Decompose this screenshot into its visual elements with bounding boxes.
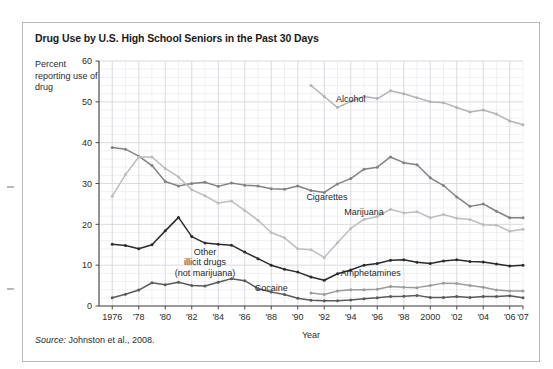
data-point	[323, 293, 326, 296]
data-point	[111, 243, 114, 246]
data-point	[164, 229, 167, 232]
data-point	[336, 289, 339, 292]
data-point	[151, 243, 154, 246]
x-tick-label: '96	[371, 312, 383, 322]
data-point	[495, 113, 498, 116]
x-tick-label: '86	[239, 312, 251, 322]
data-point	[230, 200, 233, 203]
data-point	[363, 264, 366, 267]
data-point	[124, 173, 127, 176]
series-label-group: Amphetamines	[341, 268, 402, 278]
data-point	[283, 268, 286, 271]
data-point	[124, 244, 127, 247]
data-point	[177, 184, 180, 187]
data-point	[283, 236, 286, 239]
data-point	[257, 257, 260, 260]
data-point	[469, 111, 472, 114]
data-point	[257, 219, 260, 222]
data-point	[416, 261, 419, 264]
data-point	[389, 208, 392, 211]
series-label: illicit drugs	[184, 257, 227, 267]
data-point	[363, 218, 366, 221]
data-point	[522, 123, 525, 126]
x-tick-label: '98	[398, 312, 410, 322]
data-point	[204, 242, 207, 245]
data-point	[296, 247, 299, 250]
figure-container: Drug Use by U.S. High School Seniors in …	[22, 22, 540, 362]
data-point	[482, 202, 485, 205]
x-axis-title: Year	[302, 330, 320, 340]
data-point	[310, 291, 313, 294]
x-tick-labels: 1976'78'80'82'84'86'88'90'92'94'96'98200…	[102, 306, 529, 322]
data-point	[455, 258, 458, 261]
series-label: (not marijuana)	[175, 268, 236, 278]
data-point	[363, 168, 366, 171]
data-point	[508, 294, 511, 297]
series-marijuana	[111, 155, 525, 258]
data-point	[296, 271, 299, 274]
plot-area-wrapper: 01020304050601976'78'80'82'84'86'88'90'9…	[23, 23, 541, 363]
data-point	[482, 109, 485, 112]
source-label: Source:	[35, 335, 66, 345]
x-tick-label: '80	[159, 312, 171, 322]
data-point	[495, 295, 498, 298]
data-point	[522, 289, 525, 292]
data-point	[111, 195, 114, 198]
data-point	[323, 256, 326, 259]
x-tick-label: '92	[318, 312, 330, 322]
data-point	[349, 177, 352, 180]
x-tick-label: '94	[345, 312, 357, 322]
data-point	[296, 184, 299, 187]
series-label: Alcohol	[336, 94, 366, 104]
data-point	[508, 289, 511, 292]
data-point	[270, 187, 273, 190]
x-tick-label: '07	[517, 312, 529, 322]
x-tick-label: '78	[133, 312, 145, 322]
data-point	[389, 259, 392, 262]
data-point	[204, 181, 207, 184]
data-point	[310, 276, 313, 279]
x-tick-label: '06	[504, 312, 516, 322]
y-tick-labels: 0102030405060	[82, 56, 99, 311]
data-point	[429, 284, 432, 287]
data-point	[455, 195, 458, 198]
data-point	[124, 148, 127, 151]
data-point	[204, 194, 207, 197]
data-point	[177, 216, 180, 219]
data-point	[508, 216, 511, 219]
series-label-group: Cigarettes	[306, 192, 348, 202]
series-label: Other	[194, 247, 217, 257]
data-point	[495, 262, 498, 265]
x-tick-label: '84	[212, 312, 224, 322]
x-tick-label: '04	[477, 312, 489, 322]
y-tick-label: 0	[87, 301, 92, 311]
data-point	[495, 289, 498, 292]
data-point	[230, 182, 233, 185]
series-line	[112, 148, 523, 218]
data-point	[389, 285, 392, 288]
data-point	[310, 84, 313, 87]
series-label-group: Marijuana	[344, 207, 384, 217]
data-point	[270, 231, 273, 234]
data-point	[137, 155, 140, 158]
data-point	[455, 217, 458, 220]
data-point	[217, 185, 220, 188]
data-point	[442, 184, 445, 187]
data-point	[429, 262, 432, 265]
x-tick-label: '82	[186, 312, 198, 322]
data-point	[482, 260, 485, 263]
data-point	[177, 175, 180, 178]
x-tick-label: '90	[292, 312, 304, 322]
data-point	[190, 188, 193, 191]
data-point	[469, 296, 472, 299]
data-point	[164, 283, 167, 286]
data-point	[402, 286, 405, 289]
data-point	[336, 182, 339, 185]
series-label: Cocaine	[255, 283, 288, 293]
data-point	[402, 161, 405, 164]
data-point	[336, 106, 339, 109]
data-point	[230, 277, 233, 280]
data-point	[389, 155, 392, 158]
data-point	[508, 264, 511, 267]
data-point	[376, 262, 379, 265]
